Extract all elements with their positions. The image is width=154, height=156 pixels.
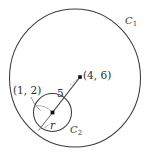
circle-c1-label-text: C bbox=[125, 15, 133, 26]
point-dot-4-6 bbox=[78, 75, 82, 79]
circle-c2-label: C2 bbox=[70, 125, 82, 135]
radius-arc-marker bbox=[45, 125, 49, 128]
circle-c1-label-subscript: 1 bbox=[133, 20, 137, 28]
circle-c2-label-text: C bbox=[70, 124, 78, 135]
circle-c1-label: C1 bbox=[125, 16, 137, 26]
point-label-4-6: (4, 6) bbox=[83, 70, 111, 81]
segment-length-label: 5 bbox=[57, 88, 64, 99]
point-dot-1-2 bbox=[51, 111, 55, 115]
circle-c2-label-subscript: 2 bbox=[78, 129, 82, 137]
point-label-1-2: (1, 2) bbox=[13, 85, 41, 96]
figure-canvas: C1 C2 (1, 2) (4, 6) 5 r bbox=[0, 0, 154, 156]
radius-label: r bbox=[50, 120, 55, 131]
